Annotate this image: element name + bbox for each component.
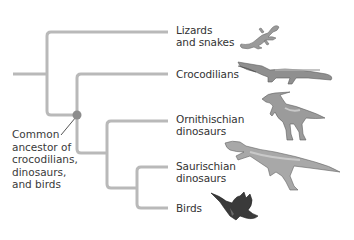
taxon-label-ornithischian-dinosaurs: Ornithischian dinosaurs <box>176 113 244 137</box>
branch-crocodilians <box>77 74 168 153</box>
taxon-label-lizards-and-snakes: Lizards and snakes <box>176 24 234 48</box>
branch-saurischians-birds <box>137 167 168 208</box>
saurischian-dinosaur-icon <box>225 141 340 190</box>
common-ancestor-callout: Common ancestor of crocodilians, dinosau… <box>12 128 78 191</box>
taxon-label-crocodilians: Crocodilians <box>176 68 239 80</box>
ornithischian-dinosaur-icon <box>262 92 325 140</box>
lizard-icon <box>240 26 279 49</box>
taxon-label-saurischian-dinosaurs: Saurischian dinosaurs <box>176 160 236 184</box>
taxon-label-birds: Birds <box>176 202 202 214</box>
node-archosaur-ancestor <box>73 111 82 120</box>
bird-icon <box>211 192 258 220</box>
crocodile-icon <box>238 62 332 84</box>
